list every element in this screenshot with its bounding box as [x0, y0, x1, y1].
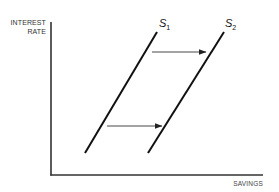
s1-label-sub: 1 [166, 24, 170, 31]
supply-curve-s1 [85, 32, 157, 153]
supply-curve-s2 [148, 32, 224, 153]
s2-label: S2 [225, 17, 236, 31]
x-axis-label: SAVINGS [233, 180, 263, 187]
chart-canvas [0, 0, 279, 192]
s2-label-sub: 2 [232, 24, 236, 31]
s1-label: S1 [159, 17, 170, 31]
